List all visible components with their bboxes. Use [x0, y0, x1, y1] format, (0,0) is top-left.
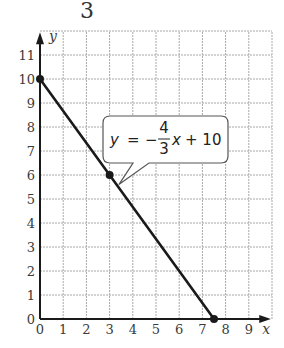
eq-equals: =	[127, 131, 140, 149]
x-tick-label: 2	[82, 322, 90, 337]
y-axis-arrow-icon	[36, 32, 44, 44]
eq-sign: −	[145, 131, 158, 149]
y-tick-label: 8	[27, 120, 35, 135]
x-axis-label: x	[262, 321, 270, 337]
x-tick-label: 6	[175, 322, 183, 337]
x-tick-label: 4	[129, 322, 137, 337]
y-tick-label: 1	[27, 288, 35, 303]
x-tick-label: 1	[59, 322, 67, 337]
x-tick-label: 9	[245, 322, 253, 337]
axes	[36, 32, 271, 323]
y-tick-label: 3	[27, 240, 35, 255]
grid	[40, 31, 272, 319]
eq-denominator: 3	[159, 140, 169, 158]
header-fragment: 3	[80, 0, 94, 23]
y-tick-label: 5	[27, 192, 35, 207]
data-point	[106, 171, 114, 179]
tick-labels: 0123456789x01234567891011y	[18, 28, 270, 337]
y-tick-label: 4	[27, 216, 35, 231]
y-tick-label: 2	[27, 264, 35, 279]
eq-constant: + 10	[185, 131, 221, 149]
eq-lhs: y	[109, 131, 120, 149]
line-graph: 3 0123456789x01234567891011y y=−43x+ 10	[0, 0, 284, 348]
equation-callout: y=−43x+ 10	[103, 116, 228, 185]
y-tick-label: 11	[18, 48, 35, 63]
data-point	[210, 315, 218, 323]
eq-numerator: 4	[159, 119, 169, 137]
x-tick-label: 0	[36, 322, 44, 337]
data-point	[36, 75, 44, 83]
y-tick-label: 6	[27, 168, 35, 183]
x-tick-label: 7	[198, 322, 206, 337]
y-axis-label: y	[48, 28, 58, 44]
y-tick-label: 0	[27, 312, 35, 327]
eq-variable: x	[171, 131, 181, 149]
y-tick-label: 9	[27, 96, 35, 111]
x-tick-label: 3	[105, 322, 113, 337]
x-tick-label: 8	[221, 322, 229, 337]
y-tick-label: 7	[27, 144, 35, 159]
y-tick-label: 10	[18, 72, 35, 87]
x-tick-label: 5	[152, 322, 160, 337]
